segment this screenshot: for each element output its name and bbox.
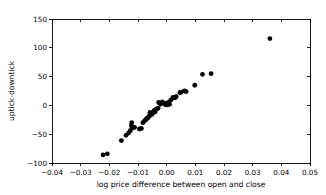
y-tick-label: 150 (33, 15, 47, 24)
x-tick-label: 0.01 (187, 168, 203, 177)
x-tick-label: −0.01 (127, 168, 149, 177)
y-tick-label: 100 (33, 43, 47, 52)
x-tick-label: 0.03 (245, 168, 261, 177)
data-points-layer (101, 36, 273, 157)
scatter-plot-figure: −0.04−0.03−0.02−0.010.000.010.020.030.04… (0, 0, 326, 195)
scatter-point (267, 36, 272, 41)
y-tick-label: −50 (32, 130, 48, 139)
scatter-point (209, 71, 214, 76)
scatter-point (129, 120, 134, 125)
y-tick-label: 0 (42, 101, 47, 110)
y-tick-label: −100 (27, 159, 47, 168)
scatter-point (174, 94, 179, 99)
y-tick-label: 50 (38, 72, 48, 81)
scatter-point (156, 106, 161, 111)
plot-canvas: −0.04−0.03−0.02−0.010.000.010.020.030.04… (0, 0, 326, 195)
x-tick-label: 0.00 (159, 168, 175, 177)
x-axis-label: log price difference between open and cl… (97, 180, 266, 189)
y-axis-label: uptick-downtick (7, 60, 16, 121)
x-tick-label: 0.04 (273, 168, 289, 177)
scatter-point (132, 125, 137, 130)
x-tick-label: −0.02 (98, 168, 120, 177)
x-tick-label: 0.05 (302, 168, 318, 177)
scatter-point (167, 102, 172, 107)
x-tick-label: −0.03 (70, 168, 92, 177)
scatter-point (139, 126, 144, 131)
scatter-point (119, 138, 124, 143)
x-axis-ticks: −0.04−0.03−0.02−0.010.000.010.020.030.04… (41, 19, 318, 177)
y-axis-ticks: −100−50050100150 (27, 15, 310, 168)
scatter-point (184, 89, 189, 94)
x-tick-label: −0.04 (41, 168, 63, 177)
scatter-point (105, 151, 110, 156)
x-tick-label: 0.02 (216, 168, 232, 177)
scatter-point (200, 72, 205, 77)
scatter-point (101, 153, 106, 158)
scatter-point (192, 83, 197, 88)
